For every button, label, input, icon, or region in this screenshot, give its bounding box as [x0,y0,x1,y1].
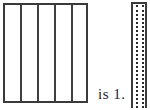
narrow-column-figure [131,2,147,108]
figure-caption: is 1. [98,86,126,103]
divided-rectangle-figure [3,3,88,103]
strip-divider-4 [71,5,73,101]
strip-divider-1 [20,5,22,101]
figure-canvas: is 1. [0,0,150,110]
strip-divider-3 [54,5,56,101]
dotted-divider-1 [136,5,138,108]
strip-divider-2 [37,5,39,101]
dotted-divider-2 [142,5,144,108]
